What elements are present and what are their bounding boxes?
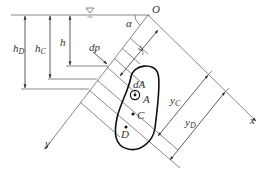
label-h: h [60,36,66,48]
point-C-dot [132,113,135,116]
angle-arc [135,15,140,25]
free-surface-icon [86,8,94,17]
strip-line [80,102,120,137]
label-y-axis: y [44,137,50,149]
hydrostatic-diagram: O α h hC hD dp dA A C D y yC yD x y [0,0,267,179]
dA-center-dot [134,94,137,97]
label-origin: O [152,3,160,15]
label-hd: hD [13,42,25,56]
label-yd: yD [184,116,196,130]
label-angle: α [126,17,132,29]
x-axis [148,15,256,121]
label-yc: yC [169,94,181,108]
label-dp: dp [89,41,101,53]
strip-line [107,67,136,93]
dp-arrow [93,52,107,64]
label-x-axis: x [249,114,255,126]
label-point-D: D [120,128,129,140]
dim-y [120,30,158,76]
ext-line [225,88,229,92]
dim-yc [158,75,208,136]
label-dA: dA [133,78,146,90]
strip-line [89,90,180,168]
ext-line [208,71,212,75]
label-hc: hC [35,42,47,56]
label-point-A: A [142,93,150,105]
label-point-C: C [137,109,145,121]
